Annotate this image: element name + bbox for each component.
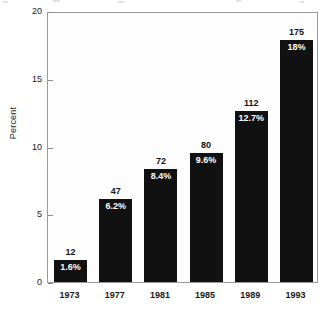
bar-percent-label: 8.4% bbox=[134, 172, 187, 181]
y-tick-mark bbox=[48, 283, 53, 284]
bar-group[interactable]: 11212.7% bbox=[235, 95, 268, 282]
bar-group[interactable]: 809.6% bbox=[190, 137, 223, 282]
bar-percent-label: 9.6% bbox=[180, 156, 233, 165]
bar-group[interactable]: 476.2% bbox=[99, 183, 132, 282]
x-tick-label: 1993 bbox=[273, 291, 318, 300]
y-tick-mark bbox=[48, 215, 53, 216]
scan-artifact bbox=[118, 1, 124, 3]
y-tick-mark bbox=[48, 80, 53, 81]
bar-count-label: 12 bbox=[40, 248, 101, 257]
y-tick-label: 10 bbox=[20, 143, 42, 152]
plot-area: 121.6%476.2%728.4%809.6%11212.7%17518% bbox=[47, 12, 318, 283]
bar-percent-label: 1.6% bbox=[44, 263, 97, 272]
y-tick-label: 15 bbox=[20, 75, 42, 84]
bar[interactable] bbox=[99, 199, 132, 282]
y-tick-label: 0 bbox=[20, 278, 42, 287]
x-tick-label: 1989 bbox=[228, 291, 273, 300]
y-axis-tick-labels: 05101520 bbox=[20, 0, 42, 313]
x-tick-label: 1981 bbox=[137, 291, 182, 300]
y-tick-label: 5 bbox=[20, 210, 42, 219]
x-tick-label: 1973 bbox=[47, 291, 92, 300]
y-tick-mark bbox=[48, 148, 53, 149]
y-tick-mark bbox=[48, 12, 53, 13]
bar-percent-label: 6.2% bbox=[89, 202, 142, 211]
y-tick-label: 20 bbox=[20, 7, 42, 16]
x-tick-label: 1985 bbox=[183, 291, 228, 300]
bar-series: 121.6%476.2%728.4%809.6%11212.7%17518% bbox=[48, 13, 317, 282]
scan-artifact bbox=[53, 0, 60, 2]
bar-percent-label: 12.7% bbox=[225, 114, 278, 123]
y-axis-label: Percent bbox=[8, 88, 18, 158]
bar-count-label: 80 bbox=[176, 141, 237, 150]
scan-artifact bbox=[300, 1, 304, 3]
bar-group[interactable]: 121.6% bbox=[54, 244, 87, 282]
bar[interactable] bbox=[144, 169, 177, 282]
x-axis-tick-labels: 197319771981198519891993 bbox=[47, 291, 318, 307]
bar-count-label: 47 bbox=[85, 187, 146, 196]
bar-group[interactable]: 728.4% bbox=[144, 153, 177, 282]
bar[interactable] bbox=[190, 153, 223, 282]
scan-artifact bbox=[236, 0, 241, 2]
bar-group[interactable]: 17518% bbox=[280, 24, 313, 282]
bar-count-label: 112 bbox=[221, 99, 282, 108]
bar[interactable] bbox=[280, 40, 313, 282]
scan-artifact bbox=[3, 1, 8, 3]
bar[interactable] bbox=[235, 111, 268, 282]
bar-count-label: 175 bbox=[266, 28, 327, 37]
x-tick-label: 1977 bbox=[92, 291, 137, 300]
bar-chart-figure: Percent 05101520 121.6%476.2%728.4%809.6… bbox=[0, 0, 336, 313]
bar-percent-label: 18% bbox=[270, 43, 323, 52]
